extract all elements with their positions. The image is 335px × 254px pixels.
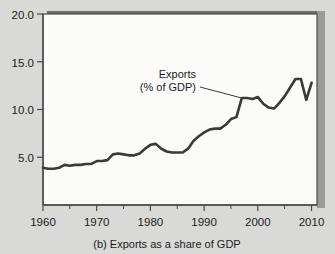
y-tick-label-15: 15.0 — [12, 57, 34, 69]
x-tick-label-1980: 1980 — [138, 216, 164, 228]
annotation-line-2: (% of GDP) — [140, 81, 196, 93]
x-tick-label-2000: 2000 — [245, 216, 271, 228]
x-tick-label-1960: 1960 — [30, 216, 56, 228]
plot-area-background — [43, 14, 317, 205]
frame-right-shadow-band — [317, 11, 325, 208]
figure-exports-share-of-gdp: 20.0 15.0 10.0 5.0 1960 1970 1980 1990 2… — [0, 0, 335, 254]
figure-caption: (b) Exports as a share of GDP — [93, 238, 240, 250]
x-tick-label-1990: 1990 — [191, 216, 217, 228]
y-tick-label-20: 20.0 — [12, 9, 34, 21]
annotation-line-1: Exports — [159, 68, 197, 80]
x-tick-label-2010: 2010 — [299, 216, 325, 228]
y-tick-label-10: 10.0 — [12, 104, 34, 116]
x-tick-label-1970: 1970 — [84, 216, 110, 228]
y-tick-label-5: 5.0 — [18, 152, 34, 164]
